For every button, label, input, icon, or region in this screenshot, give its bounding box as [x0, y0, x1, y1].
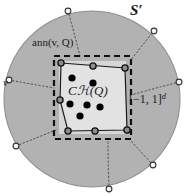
hull-vertex	[124, 127, 130, 133]
figure-canvas: S′ ann(v, Q) Cℋ(Q) [−1, 1]d v	[0, 0, 184, 196]
sphere-label: S′	[130, 2, 143, 19]
data-point	[66, 100, 73, 107]
hull-vertex	[58, 60, 64, 66]
data-point	[96, 103, 103, 110]
hull-vertex	[92, 128, 98, 134]
data-point	[76, 112, 83, 119]
data-point	[68, 74, 75, 81]
hull-vertex	[122, 65, 128, 71]
hull-vertex	[90, 63, 96, 69]
hull-vertex	[57, 97, 63, 103]
boundary-node	[176, 79, 182, 85]
annulus-label: ann(v, Q)	[32, 36, 73, 48]
cube-label: [−1, 1]d	[129, 92, 166, 107]
data-point	[83, 101, 90, 108]
boundary-node	[106, 186, 112, 192]
boundary-node	[150, 162, 156, 168]
boundary-node	[65, 8, 71, 14]
hull-vertex	[65, 128, 71, 134]
boundary-node	[13, 143, 19, 149]
convex-hull-label: Cℋ(Q)	[68, 83, 108, 99]
vertex-v-label: v	[3, 76, 8, 88]
boundary-node	[151, 28, 157, 34]
cube-label-exponent: d	[162, 92, 166, 101]
cube-label-base: [−1, 1]	[129, 92, 162, 106]
